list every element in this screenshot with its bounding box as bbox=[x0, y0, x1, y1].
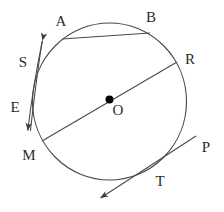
point-label-p: P bbox=[202, 139, 210, 155]
point-label-o: O bbox=[113, 102, 124, 118]
point-label-e: E bbox=[10, 99, 19, 115]
point-label-a: A bbox=[56, 13, 67, 29]
secant-se-line-inner bbox=[30, 42, 42, 132]
point-label-r: R bbox=[185, 51, 195, 67]
chord-ab-segment bbox=[62, 33, 150, 39]
point-label-t: T bbox=[155, 173, 164, 189]
point-label-m: M bbox=[22, 147, 35, 163]
tangent-tp-line bbox=[101, 136, 197, 198]
point-label-b: B bbox=[146, 9, 156, 25]
geometry-canvas: A B R P T M E S O bbox=[0, 0, 224, 212]
geometry-diagram: A B R P T M E S O bbox=[0, 0, 224, 212]
point-label-s: S bbox=[19, 54, 27, 70]
